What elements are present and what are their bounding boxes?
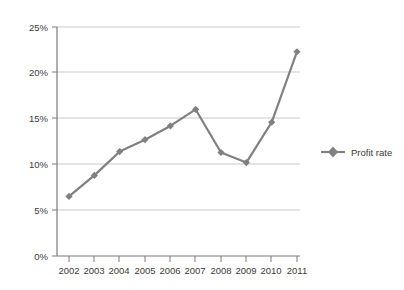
x-axis-label-2002: 2002 <box>58 265 79 276</box>
y-axis-label-15: 15% <box>29 113 49 124</box>
y-axis-label-10: 10% <box>29 159 49 170</box>
x-axis-label-2010: 2010 <box>260 265 281 276</box>
x-axis-label-2007: 2007 <box>184 265 205 276</box>
y-axis-label-0: 0% <box>34 251 48 262</box>
y-axis-label-20: 20% <box>29 67 49 78</box>
legend: Profit rate <box>321 147 392 158</box>
chart-background <box>0 0 404 290</box>
chart-canvas: 25% 20% 15% 10% 5% 0% 2002 2003 2004 200… <box>0 0 404 290</box>
x-axis-label-2009: 2009 <box>235 265 256 276</box>
y-axis-label-25: 25% <box>29 22 49 33</box>
legend-label-profit-rate: Profit rate <box>351 147 392 158</box>
y-axis-label-5: 5% <box>34 205 48 216</box>
x-axis-label-2005: 2005 <box>134 265 155 276</box>
x-axis-label-2011: 2011 <box>287 265 307 276</box>
x-axis-label-2008: 2008 <box>210 265 231 276</box>
x-axis-label-2006: 2006 <box>159 265 180 276</box>
line-chart: 25% 20% 15% 10% 5% 0% 2002 2003 2004 200… <box>0 0 404 290</box>
x-axis-label-2004: 2004 <box>108 265 129 276</box>
x-axis-label-2003: 2003 <box>83 265 104 276</box>
